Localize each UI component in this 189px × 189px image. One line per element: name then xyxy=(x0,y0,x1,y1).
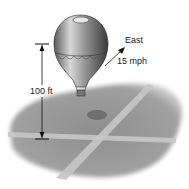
direction-label: East xyxy=(125,36,143,45)
balloon xyxy=(54,15,108,96)
balloon-basket xyxy=(77,90,85,96)
height-label: 100 ft xyxy=(30,87,53,96)
balloon-shadow xyxy=(87,110,107,120)
ground-area xyxy=(10,84,182,178)
speed-label: 15 mph xyxy=(117,57,147,66)
hot-air-balloon-diagram xyxy=(0,0,189,189)
